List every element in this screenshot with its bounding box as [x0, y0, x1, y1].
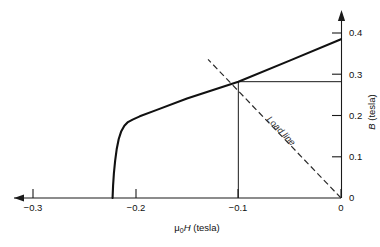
x-tick-labels-group: −0.3 −0.2 −0.1 0	[24, 202, 344, 213]
y-axis-title: B (tesla)	[366, 94, 377, 129]
y-axis-arrow-icon	[338, 10, 345, 21]
y-origin-label: 0	[349, 192, 354, 203]
y-tick-label: 0.2	[349, 110, 362, 121]
x-axis-title: μ0H (tesla)	[174, 222, 219, 234]
y-tick-label: 0.4	[349, 27, 362, 38]
x-tick-label: −0.1	[229, 202, 248, 213]
axis-titles-group: μ0H (tesla) B (tesla)	[174, 94, 377, 234]
x-tick-label: −0.2	[127, 202, 146, 213]
x-tick-label: −0.3	[24, 202, 43, 213]
load-line-label: Load line	[265, 114, 298, 147]
x-ticks-group	[33, 189, 341, 198]
y-tick-labels-group: 0.1 0.2 0.3 0.4 0	[349, 27, 362, 203]
axes-group	[14, 10, 345, 202]
figure-container: −0.3 −0.2 −0.1 0 0.1 0.2 0.3 0.4 0 μ0H (…	[0, 0, 380, 247]
load-line-group: Load line	[208, 59, 341, 198]
x-axis-arrow-icon	[14, 194, 24, 201]
demagnetization-curve-data-path	[113, 39, 341, 198]
y-ticks-group	[332, 33, 341, 157]
demagnetization-curve-data-group	[113, 39, 341, 198]
x-axis-title-unit: (tesla)	[191, 222, 220, 233]
x-origin-label: 0	[338, 202, 343, 213]
y-axis-title-unit: (tesla)	[366, 94, 377, 123]
y-tick-label: 0.1	[349, 151, 362, 162]
demagnetization-curve-chart: −0.3 −0.2 −0.1 0 0.1 0.2 0.3 0.4 0 μ0H (…	[0, 0, 380, 247]
y-tick-label: 0.3	[349, 69, 362, 80]
